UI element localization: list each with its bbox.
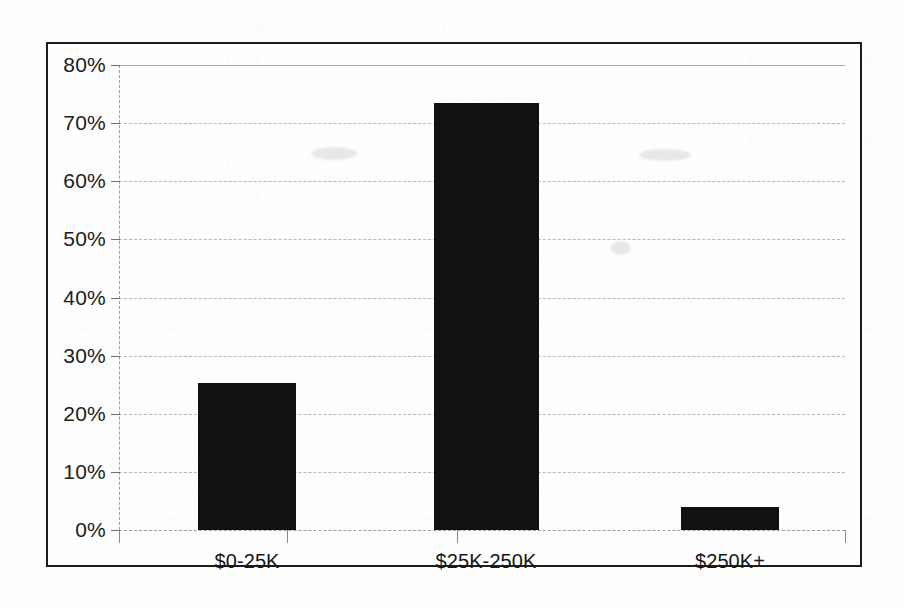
- x-axis-label-0: $0-25K: [214, 550, 279, 573]
- bar-0-25k: [198, 383, 296, 530]
- plot-area: 80% 70% 60% 50% 40% 30% 20%: [119, 65, 845, 530]
- y-axis-label-70: 70%: [63, 111, 106, 135]
- y-axis-label-0: 0%: [75, 518, 106, 542]
- scan-smudge: [311, 147, 357, 160]
- x-tick-0: [119, 530, 120, 543]
- bar-25k-250k: [434, 103, 539, 530]
- gridline-80: [119, 65, 845, 66]
- y-axis-label-60: 60%: [63, 169, 106, 193]
- y-tick-30: [111, 356, 120, 357]
- x-axis-label-2: $250K+: [695, 550, 765, 573]
- y-axis-label-30: 30%: [63, 344, 106, 368]
- y-axis-label-20: 20%: [63, 402, 106, 426]
- x-tick-1: [287, 530, 288, 543]
- y-tick-80: [111, 65, 120, 66]
- x-tick-3: [845, 530, 846, 543]
- x-tick-2: [457, 530, 458, 543]
- y-tick-20: [111, 414, 120, 415]
- y-axis-label-10: 10%: [63, 460, 106, 484]
- y-axis-label-50: 50%: [63, 227, 106, 251]
- y-tick-10: [111, 472, 120, 473]
- bar-250k-plus: [681, 507, 779, 530]
- y-tick-70: [111, 123, 120, 124]
- y-tick-40: [111, 298, 120, 299]
- scan-smudge: [639, 149, 691, 161]
- y-tick-60: [111, 181, 120, 182]
- y-axis-label-40: 40%: [63, 286, 106, 310]
- chart-frame: 80% 70% 60% 50% 40% 30% 20%: [46, 42, 862, 567]
- gridline-0: [119, 530, 845, 531]
- x-axis-label-1: $25K-250K: [436, 550, 537, 573]
- y-tick-50: [111, 239, 120, 240]
- scanned-page: 80% 70% 60% 50% 40% 30% 20%: [0, 0, 904, 607]
- y-axis-label-80: 80%: [63, 53, 106, 77]
- scan-smudge: [611, 241, 631, 255]
